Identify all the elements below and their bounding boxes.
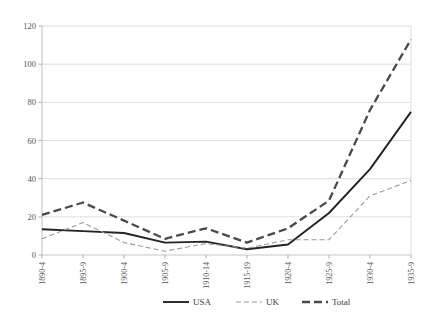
y-tick-label: 80 [28, 97, 37, 107]
line-chart-figure: 020406080100120 1890-41895-91900-41905-9… [0, 0, 444, 325]
y-tick-label: 40 [28, 174, 37, 184]
legend-label-total: Total [332, 297, 351, 307]
x-tick-label: 1905-9 [161, 262, 170, 285]
y-axis-ticks-group: 020406080100120 [23, 21, 42, 260]
y-tick-label: 60 [28, 136, 37, 146]
x-tick-label: 1910-14 [202, 262, 211, 289]
y-tick-label: 120 [23, 21, 36, 31]
x-axis-ticks-group: 1890-41895-91900-41905-91910-141915-1919… [38, 255, 416, 289]
x-tick-label: 1935-9 [407, 262, 416, 285]
x-tick-label: 1915-19 [243, 262, 252, 289]
x-tick-label: 1900-4 [120, 262, 129, 285]
legend-label-usa: USA [193, 297, 212, 307]
x-tick-label: 1920-4 [284, 262, 293, 285]
chart-canvas: 020406080100120 1890-41895-91900-41905-9… [0, 0, 444, 325]
x-tick-label: 1930-4 [366, 262, 375, 285]
x-tick-label: 1890-4 [38, 262, 47, 285]
x-tick-label: 1925-9 [325, 262, 334, 285]
y-tick-label: 0 [32, 250, 36, 260]
x-tick-label: 1895-9 [79, 262, 88, 285]
series-line-usa [42, 112, 411, 249]
series-line-total [42, 39, 411, 242]
series-line-uk [42, 181, 411, 252]
y-tick-label: 100 [23, 59, 36, 69]
data-series-group [42, 39, 411, 251]
chart-legend: USAUKTotal [163, 297, 351, 307]
legend-label-uk: UK [266, 297, 279, 307]
y-tick-label: 20 [28, 212, 37, 222]
